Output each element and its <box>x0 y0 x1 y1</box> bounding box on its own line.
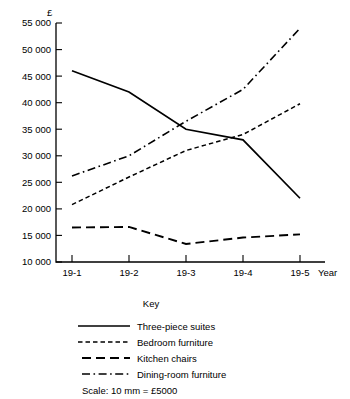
y-tick-label: 50 000 <box>22 44 51 55</box>
x-tick-label: 19-4 <box>233 267 252 278</box>
legend-entry-dining-room-furniture: Dining-room furniture <box>82 369 226 380</box>
legend-label: Dining-room furniture <box>137 369 226 380</box>
series-line-kitchen-chairs <box>72 227 300 244</box>
legend-entry-kitchen-chairs: Kitchen chairs <box>82 353 197 364</box>
series-line-three-piece-suites <box>72 71 300 198</box>
x-axis-title: Year <box>318 267 337 278</box>
legend-entry-bedroom-furniture: Bedroom furniture <box>78 337 213 348</box>
series-line-bedroom-furniture <box>72 104 300 205</box>
legend-label: Three-piece suites <box>137 321 215 332</box>
y-axis-unit-label: £ <box>47 7 53 18</box>
series-line-dining-room-furniture <box>72 28 300 176</box>
legend-entry-three-piece-suites: Three-piece suites <box>78 321 215 332</box>
legend-label: Kitchen chairs <box>137 353 197 364</box>
legend-label: Bedroom furniture <box>137 337 213 348</box>
y-tick-label: 35 000 <box>22 124 51 135</box>
chart-container: £ 10 000 15 000 20 000 25 000 30 000 35 … <box>0 0 350 399</box>
x-tick-label: 19-5 <box>290 267 309 278</box>
y-tick-label: 15 000 <box>22 230 51 241</box>
y-axis-ticks <box>56 23 62 262</box>
line-chart-svg: £ 10 000 15 000 20 000 25 000 30 000 35 … <box>0 0 350 399</box>
legend-title: Key <box>143 298 160 309</box>
x-axis-tick-labels: 19-1 19-2 19-3 19-4 19-5 <box>62 267 309 278</box>
y-tick-label: 25 000 <box>22 177 51 188</box>
y-tick-label: 55 000 <box>22 17 51 28</box>
y-tick-label: 20 000 <box>22 203 51 214</box>
x-tick-label: 19-2 <box>119 267 138 278</box>
y-tick-label: 30 000 <box>22 150 51 161</box>
x-tick-label: 19-1 <box>62 267 81 278</box>
y-tick-label: 10 000 <box>22 256 51 267</box>
x-tick-label: 19-3 <box>176 267 195 278</box>
x-axis-ticks <box>72 255 300 262</box>
y-tick-label: 40 000 <box>22 97 51 108</box>
y-axis-tick-labels: 10 000 15 000 20 000 25 000 30 000 35 00… <box>22 17 51 267</box>
scale-note: Scale: 10 mm = £5000 <box>82 385 177 396</box>
axis-lines <box>56 23 325 262</box>
y-tick-label: 45 000 <box>22 71 51 82</box>
